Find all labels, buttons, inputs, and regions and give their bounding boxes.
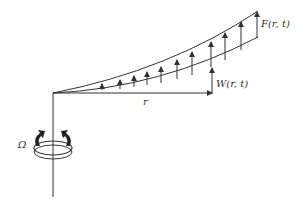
rotating-beam-diagram: F(r, t) W(r, t) r Ω	[0, 0, 305, 208]
deflection-label: W(r, t)	[216, 78, 248, 89]
angular-velocity-label: Ω	[17, 139, 26, 150]
radius-label: r	[143, 96, 149, 107]
force-label: F(r, t)	[260, 18, 290, 29]
